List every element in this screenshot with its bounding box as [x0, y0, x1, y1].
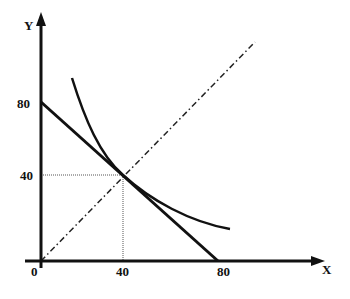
origin-label: 0: [31, 264, 38, 279]
x-axis-label: X: [322, 262, 332, 277]
chart: Y X 80 40 0 40 80: [0, 0, 350, 299]
y-tick-40: 40: [20, 168, 33, 183]
indifference-curve: [72, 78, 230, 229]
y-axis-arrow-icon: [36, 12, 46, 26]
x-tick-80: 80: [217, 264, 230, 279]
x-tick-40: 40: [116, 264, 129, 279]
y-tick-80: 80: [17, 96, 30, 111]
y-axis-label: Y: [24, 18, 34, 33]
